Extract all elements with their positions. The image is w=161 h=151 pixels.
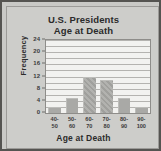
x-tick-upper: 50 — [46, 123, 63, 130]
gridline — [46, 46, 150, 47]
y-tick-label: 16 — [33, 60, 40, 66]
x-tick-lower: 60- — [81, 116, 98, 123]
chart-frame: U.S. Presidents Age at Death Frequency 0… — [0, 0, 161, 151]
bar-70-80 — [100, 80, 113, 113]
gridline — [46, 52, 150, 53]
gridline — [46, 89, 150, 90]
chart-title-line-1: U.S. Presidents — [48, 14, 119, 25]
y-tick-label: 24 — [33, 36, 40, 42]
x-tick-label: 60-70 — [81, 116, 98, 130]
x-tick-upper: 90 — [115, 123, 132, 130]
gridline — [46, 64, 150, 65]
y-tick-label: 4 — [37, 97, 40, 103]
chart-title: U.S. Presidents Age at Death — [7, 15, 160, 36]
gridline — [46, 40, 150, 41]
x-tick-label: 90-100 — [133, 116, 150, 130]
gridline — [46, 70, 150, 71]
x-axis-label: Age at Death — [7, 133, 160, 143]
bar-50-60 — [66, 98, 79, 113]
y-tick-label: 12 — [33, 73, 40, 79]
x-tick-lower: 80- — [115, 116, 132, 123]
x-tick-lower: 70- — [98, 116, 115, 123]
x-tick-label: 50-60 — [63, 116, 80, 130]
x-tick-upper: 70 — [81, 123, 98, 130]
plot-area — [45, 39, 151, 114]
y-tick-label: 8 — [37, 85, 40, 91]
gridline — [46, 83, 150, 84]
gridline — [46, 101, 150, 102]
x-tick-upper: 60 — [63, 123, 80, 130]
bar-60-70 — [83, 77, 96, 114]
bar-90-100 — [135, 107, 148, 113]
x-tick-label: 80-90 — [115, 116, 132, 130]
y-axis-ticks: 04812162024 — [25, 35, 45, 118]
x-tick-lower: 40- — [46, 116, 63, 123]
x-tick-label: 70-80 — [98, 116, 115, 130]
x-tick-lower: 90- — [133, 116, 150, 123]
y-tick-label: 0 — [37, 109, 40, 115]
bar-80-90 — [118, 98, 131, 113]
bar-40-50 — [48, 107, 61, 113]
x-tick-upper: 100 — [133, 123, 150, 130]
y-tick-label: 20 — [33, 48, 40, 54]
gridline — [46, 95, 150, 96]
x-tick-lower: 50- — [63, 116, 80, 123]
chart-panel: U.S. Presidents Age at Death Frequency 0… — [6, 6, 159, 149]
x-tick-upper: 80 — [98, 123, 115, 130]
gridline — [46, 77, 150, 78]
gridline — [46, 58, 150, 59]
x-tick-label: 40-50 — [46, 116, 63, 130]
